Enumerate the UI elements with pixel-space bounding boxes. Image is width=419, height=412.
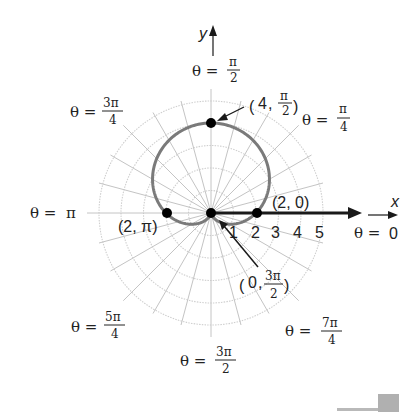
svg-text:θ =: θ = [70, 103, 96, 121]
svg-text:3π: 3π [103, 96, 119, 110]
point-2-0 [252, 208, 262, 218]
point-4-pi-2 [206, 118, 216, 128]
svg-text:4: 4 [328, 333, 336, 347]
svg-text:π: π [66, 204, 76, 222]
svg-text:θ =: θ = [354, 224, 380, 242]
svg-text:,: , [268, 95, 272, 112]
polar-graph: x y 1 2 3 4 5 ( 4 , π 2 ) (2, 0) (2, π) [0, 0, 419, 412]
label-2-0: (2, 0) [272, 194, 309, 211]
svg-text:θ =: θ = [192, 62, 218, 80]
page-corner-decoration [337, 394, 399, 412]
label-4-pi-2: ( 4 , π 2 ) [249, 89, 298, 118]
svg-text:7π: 7π [322, 316, 338, 330]
svg-text:,: , [258, 274, 262, 291]
svg-text:π: π [339, 102, 347, 116]
radial-tick-labels: 1 2 3 4 5 [229, 224, 324, 241]
svg-text:0: 0 [389, 225, 398, 242]
svg-text:4: 4 [109, 113, 117, 127]
svg-text:4: 4 [258, 95, 267, 112]
svg-text:5π: 5π [105, 310, 121, 324]
angle-label-pi-2: θ = π 2 [192, 55, 240, 85]
tick-4: 4 [293, 224, 302, 241]
point-origin [206, 208, 216, 218]
svg-text:π: π [280, 89, 288, 103]
svg-text:(: ( [249, 98, 255, 115]
angle-label-0: θ = 0 [354, 224, 398, 242]
svg-text:θ =: θ = [285, 322, 311, 340]
svg-text:3π: 3π [265, 269, 281, 283]
point-2-pi [162, 208, 172, 218]
svg-text:): ) [293, 98, 298, 115]
angle-label-3pi-2: θ = 3π 2 [180, 345, 236, 376]
svg-text:2: 2 [230, 71, 238, 85]
svg-text:(: ( [239, 277, 245, 294]
y-axis-arrow [209, 25, 217, 56]
annotation-arrow-4-pi-2 [217, 107, 244, 121]
svg-text:θ =: θ = [180, 352, 206, 370]
svg-text:π: π [229, 55, 237, 69]
svg-text:3π: 3π [216, 345, 232, 359]
svg-text:θ =: θ = [71, 318, 97, 336]
angle-label-pi: θ = π [30, 204, 76, 222]
tick-5: 5 [315, 224, 324, 241]
y-axis-label: y [198, 25, 208, 42]
svg-text:4: 4 [340, 120, 348, 134]
svg-text:2: 2 [282, 104, 290, 118]
angle-label-7pi-4: θ = 7π 4 [285, 316, 342, 347]
svg-text:2: 2 [222, 362, 230, 376]
svg-text:0: 0 [248, 274, 257, 291]
x-axis-arrow [368, 211, 398, 219]
label-2-pi: (2, π) [118, 218, 157, 235]
svg-text:2: 2 [270, 287, 278, 301]
x-axis-label: x [390, 193, 400, 210]
tick-2: 2 [251, 224, 260, 241]
svg-text:): ) [284, 277, 289, 294]
angle-label-3pi-4: θ = 3π 4 [70, 96, 123, 127]
tick-3: 3 [271, 224, 280, 241]
svg-text:θ =: θ = [302, 111, 328, 129]
svg-text:4: 4 [111, 327, 119, 341]
angle-label-pi-4: θ = π 4 [302, 102, 350, 134]
angle-label-5pi-4: θ = 5π 4 [71, 310, 125, 341]
svg-text:θ =: θ = [30, 204, 56, 222]
